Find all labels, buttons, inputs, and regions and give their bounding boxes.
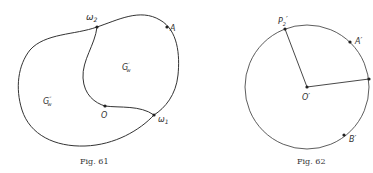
- figure-canvas: ω2 A O ω1 G′w G″w Fig. 61 P2′ A′ O′ B′ F…: [0, 0, 373, 173]
- inner-cut-curve: [83, 27, 105, 106]
- inner-cut-curve-lower: [105, 106, 154, 115]
- fig-62: P2′ A′ O′ B′ Fig. 62: [245, 16, 371, 166]
- label-O-prime: O′: [302, 93, 310, 102]
- label-O: O: [101, 111, 107, 120]
- label-A: A: [169, 24, 175, 33]
- point-omega1: [152, 113, 155, 116]
- point-right: [367, 77, 370, 80]
- point-A: [165, 25, 168, 28]
- label-B-prime: B′: [349, 135, 356, 144]
- point-O-prime: [305, 85, 308, 88]
- point-B-prime: [342, 133, 345, 136]
- label-G-prime-w: G′w: [122, 61, 132, 73]
- label-omega1: ω1: [158, 115, 169, 125]
- fig-61: ω2 A O ω1 G′w G″w Fig. 61: [18, 12, 178, 166]
- label-A-prime: A′: [354, 37, 362, 46]
- label-P2-prime: P2′: [278, 16, 288, 27]
- point-A-prime: [348, 40, 351, 43]
- label-G-double-prime-w: G″w: [43, 95, 52, 107]
- label-omega2: ω2: [86, 12, 98, 23]
- radius-to-right-point: [307, 79, 369, 87]
- point-omega2: [95, 25, 98, 28]
- radius-to-P2: [285, 29, 307, 87]
- caption-fig-62: Fig. 62: [297, 157, 326, 166]
- caption-fig-61: Fig. 61: [80, 157, 109, 166]
- point-O: [103, 104, 106, 107]
- point-P2-prime: [283, 27, 286, 30]
- outer-boundary-curve: [18, 15, 178, 146]
